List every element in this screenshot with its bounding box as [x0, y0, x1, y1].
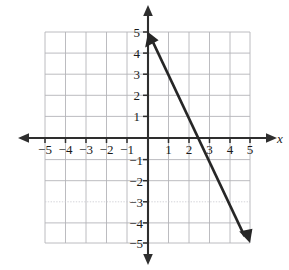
x-tick-label-2: 2: [186, 142, 193, 157]
right-arrow-icon: [266, 133, 277, 143]
x-tick-label-1: 1: [165, 142, 172, 157]
y-tick-label-4: 4: [134, 46, 141, 61]
x-tick-label--3: −3: [79, 142, 93, 157]
x-tick-label--5: −5: [38, 142, 52, 157]
y-tick-label-2: 2: [134, 88, 141, 103]
x-axis-label: x: [276, 131, 283, 146]
y-tick-label--5: −5: [129, 236, 143, 251]
coordinate-plane-figure: −5 −4 −3 −2 −1 1 2 3 4 5 5 4 3 2 1 −1 −2…: [0, 0, 289, 270]
x-tick-label--2: −2: [100, 142, 114, 157]
y-tick-label-1: 1: [134, 109, 141, 124]
y-tick-label--3: −3: [129, 195, 143, 210]
y-tick-label-3: 3: [134, 67, 141, 82]
y-tick-label--2: −2: [129, 174, 143, 189]
y-tick-label--1: −1: [129, 153, 143, 168]
graph-canvas: −5 −4 −3 −2 −1 1 2 3 4 5 5 4 3 2 1 −1 −2…: [0, 0, 289, 270]
up-arrow-icon: [143, 5, 153, 16]
x-tick-labels: −5 −4 −3 −2 −1 1 2 3 4 5: [38, 142, 253, 157]
x-tick-label-5: 5: [247, 142, 254, 157]
x-tick-label--4: −4: [59, 142, 73, 157]
line-segment: [153, 43, 244, 237]
y-tick-label--4: −4: [129, 216, 143, 231]
left-arrow-icon: [18, 133, 29, 143]
down-arrow-icon: [143, 254, 153, 265]
x-tick-label-4: 4: [227, 142, 234, 157]
y-tick-label-5: 5: [134, 25, 141, 40]
